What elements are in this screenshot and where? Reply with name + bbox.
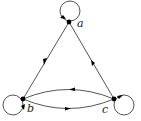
self-loop-c: [114, 95, 134, 115]
node-c: [112, 97, 117, 102]
arrowhead-icon: [69, 88, 75, 92]
edge-b-to-c: [23, 99, 114, 111]
node-label-a: a: [77, 17, 84, 30]
node-a: [67, 20, 72, 25]
edge-c-to-b: [23, 88, 114, 100]
directed-graph-diagram: a b c: [0, 0, 141, 121]
edge-c-to-a: [69, 22, 114, 99]
node-label-b: b: [27, 102, 34, 115]
node-label-c: c: [102, 103, 108, 116]
arrowhead-icon: [117, 95, 123, 99]
arrowhead-icon: [65, 107, 71, 111]
edge-a-to-b: [23, 22, 69, 99]
node-b: [21, 97, 26, 102]
